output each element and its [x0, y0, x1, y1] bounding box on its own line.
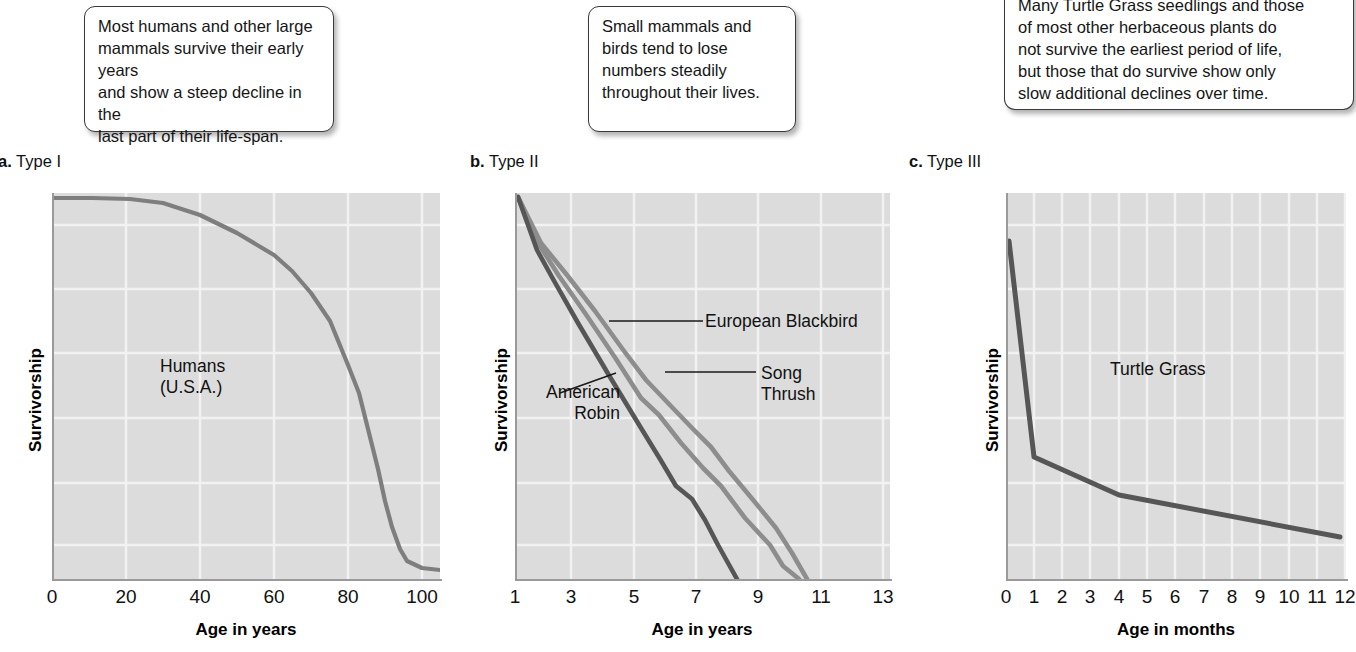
- y-axis-label-type-ii: Survivorship: [492, 348, 512, 452]
- panel-c-title: Type III: [927, 152, 981, 170]
- x-tick-a-40: 40: [189, 586, 210, 608]
- x-tick-b-5: 5: [629, 586, 640, 608]
- x-tick-labels-type-ii: 1 3 5 7 9 11 13: [515, 586, 890, 612]
- gridlines-type-iii: [1006, 193, 1346, 579]
- x-axis-line-type-iii: [1006, 579, 1348, 581]
- x-tick-c-10: 10: [1278, 586, 1299, 608]
- x-tick-a-80: 80: [337, 586, 358, 608]
- x-tick-b-13: 13: [872, 586, 893, 608]
- x-tick-a-0: 0: [47, 586, 58, 608]
- series-label-humans: Humans (U.S.A.): [160, 356, 225, 397]
- y-axis-line-type-iii: [1006, 193, 1008, 581]
- x-axis-line-type-i: [52, 579, 442, 581]
- x-tick-b-11: 11: [811, 586, 831, 608]
- x-tick-labels-type-i: 0 20 40 60 80 100: [52, 586, 440, 612]
- leader-lines-type-ii: [460, 180, 900, 580]
- y-axis-label-type-iii: Survivorship: [983, 348, 1003, 452]
- chart-svg-type-iii: [1006, 193, 1346, 579]
- panel-c-letter: c.: [909, 152, 923, 170]
- x-tick-c-3: 3: [1085, 586, 1096, 608]
- x-tick-c-0: 0: [1001, 586, 1012, 608]
- curve-humans: [54, 198, 440, 570]
- panel-a-title: Type I: [16, 152, 61, 170]
- panel-c-caption: c. Type III: [909, 152, 981, 171]
- series-label-american-robin: American Robin: [546, 382, 620, 423]
- x-axis-label-type-ii: Age in years: [651, 620, 752, 640]
- x-tick-b-3: 3: [566, 586, 577, 608]
- x-tick-c-9: 9: [1255, 586, 1266, 608]
- series-label-turtle-grass: Turtle Grass: [1110, 359, 1206, 380]
- panel-b-title: Type II: [489, 152, 539, 170]
- x-axis-label-type-iii: Age in months: [1117, 620, 1235, 640]
- plot-area-type-iii: [1006, 193, 1346, 579]
- x-tick-c-7: 7: [1199, 586, 1210, 608]
- x-tick-c-4: 4: [1114, 586, 1125, 608]
- x-tick-c-5: 5: [1142, 586, 1153, 608]
- x-tick-c-8: 8: [1227, 586, 1238, 608]
- panel-b-letter: b.: [470, 152, 485, 170]
- x-tick-c-2: 2: [1057, 586, 1068, 608]
- series-label-song-thrush: Song Thrush: [761, 363, 815, 404]
- x-tick-b-1: 1: [510, 586, 521, 608]
- y-axis-label-type-i: Survivorship: [26, 348, 46, 452]
- x-tick-b-7: 7: [691, 586, 702, 608]
- x-tick-a-100: 100: [406, 586, 438, 608]
- gridlines-type-i: [52, 193, 440, 579]
- panel-a-caption: a. Type I: [0, 152, 61, 171]
- panel-a-letter: a.: [0, 152, 12, 170]
- x-tick-labels-type-iii: 0 1 2 3 4 5 6 7 8 9 10 11 12: [1006, 586, 1346, 612]
- x-tick-c-1: 1: [1029, 586, 1040, 608]
- x-tick-c-12: 12: [1334, 586, 1355, 608]
- y-axis-line-type-i: [52, 193, 54, 581]
- series-label-european-blackbird: European Blackbird: [705, 311, 858, 332]
- plot-area-type-i: [52, 193, 440, 579]
- x-tick-a-20: 20: [115, 586, 136, 608]
- x-tick-c-11: 11: [1307, 586, 1327, 608]
- x-tick-b-9: 9: [753, 586, 764, 608]
- x-tick-a-60: 60: [263, 586, 284, 608]
- x-axis-label-type-i: Age in years: [195, 620, 296, 640]
- panel-b-caption: b. Type II: [470, 152, 539, 171]
- chart-svg-type-i: [52, 193, 440, 579]
- x-tick-c-6: 6: [1170, 586, 1181, 608]
